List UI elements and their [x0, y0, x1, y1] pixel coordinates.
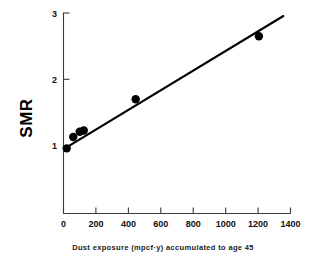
- scatter-plot-svg: 3 2 1 0 200 400 600 800 1000 1200 1400 S…: [0, 0, 313, 258]
- x-tick-label-200: 200: [88, 219, 103, 229]
- y-axis-label: SMR: [17, 98, 36, 137]
- x-tick-label-1000: 1000: [216, 219, 236, 229]
- x-tick-label-800: 800: [186, 219, 201, 229]
- chart-figure: 3 2 1 0 200 400 600 800 1000 1200 1400 S…: [0, 0, 313, 258]
- y-tick-label-3: 3: [52, 9, 57, 19]
- y-tick-label-2: 2: [52, 75, 57, 85]
- x-tick-label-0: 0: [61, 219, 66, 229]
- x-tick-label-1400: 1400: [280, 219, 300, 229]
- data-point: [69, 133, 77, 141]
- x-tick-label-1200: 1200: [248, 219, 268, 229]
- regression-line: [64, 16, 283, 149]
- x-tick-label-600: 600: [153, 219, 168, 229]
- y-tick-label-1: 1: [52, 141, 57, 151]
- x-axis-caption: Dust exposure (mpcf·y) accumulated to ag…: [72, 243, 254, 252]
- data-point: [131, 95, 139, 103]
- data-point: [255, 32, 263, 40]
- data-point: [63, 144, 71, 152]
- data-point: [80, 126, 88, 134]
- x-tick-label-400: 400: [121, 219, 136, 229]
